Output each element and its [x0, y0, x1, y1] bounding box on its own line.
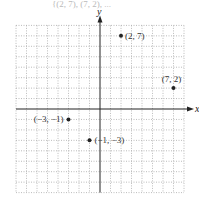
data-point — [119, 34, 123, 38]
y-axis-label: y — [96, 6, 102, 17]
cropped-header-text: {(2, 7), (7, 2), ... — [52, 0, 111, 9]
data-point — [172, 86, 176, 90]
data-point — [67, 117, 71, 121]
x-axis-arrow-icon — [187, 107, 194, 112]
data-point — [88, 138, 92, 142]
point-label: (−3, −1) — [34, 114, 64, 124]
point-label: (−1, −3) — [95, 135, 125, 145]
axes: xy — [16, 6, 199, 192]
x-axis-label: x — [194, 103, 199, 114]
point-label: (2, 7) — [125, 31, 145, 41]
point-label: (7, 2) — [162, 74, 182, 84]
coordinate-plane: {(2, 7), (7, 2), ... xy (2, 7)(7, 2)(−3,… — [0, 0, 199, 207]
